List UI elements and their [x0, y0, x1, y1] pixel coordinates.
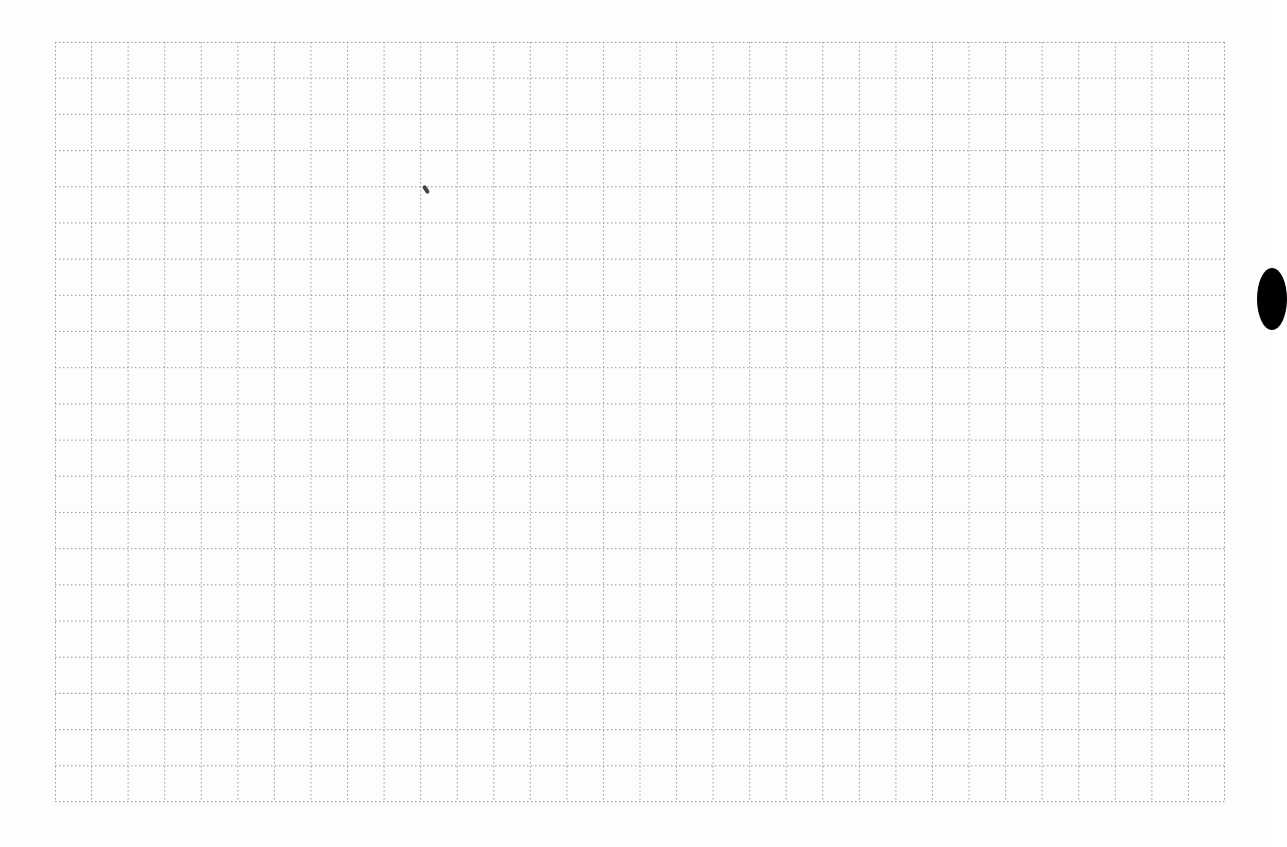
grid-lines — [55, 42, 1225, 802]
punch-hole — [1257, 268, 1287, 330]
dotted-grid — [55, 42, 1225, 802]
